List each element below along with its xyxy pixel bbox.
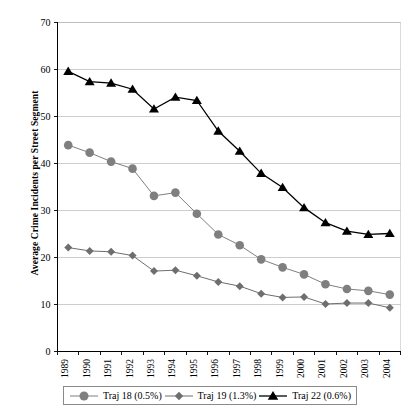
svg-text:50: 50 (41, 111, 51, 122)
svg-text:2001: 2001 (317, 359, 327, 378)
svg-text:1991: 1991 (103, 359, 113, 378)
svg-text:10: 10 (41, 299, 51, 310)
crime-trajectory-chart: Average Crime Incidents per Street Segme… (0, 0, 415, 412)
svg-text:1990: 1990 (82, 359, 92, 378)
svg-text:1995: 1995 (189, 359, 199, 378)
series-1 (64, 141, 394, 299)
x-axis-ticks: 1989199019911992199319941995199619971998… (58, 351, 401, 378)
svg-text:30: 30 (41, 205, 51, 216)
plot-area: 010203040506070 198919901991199219931994… (0, 0, 415, 412)
data-series (63, 67, 395, 312)
svg-text:40: 40 (41, 158, 51, 169)
legend-entry-3[interactable]: Traj 22 (0.6%) (258, 390, 351, 402)
legend-marker-diamond-icon (164, 390, 194, 402)
svg-text:1997: 1997 (232, 359, 242, 378)
svg-text:60: 60 (41, 64, 51, 75)
svg-text:20: 20 (41, 252, 51, 263)
chart-legend: Traj 18 (0.5%)Traj 19 (1.3%)Traj 22 (0.6… (63, 386, 357, 405)
legend-marker-circle-icon (69, 390, 99, 402)
svg-text:0: 0 (46, 346, 51, 357)
legend-entry-1[interactable]: Traj 18 (0.5%) (69, 390, 162, 402)
svg-text:1989: 1989 (60, 359, 70, 378)
legend-label: Traj 18 (0.5%) (103, 390, 162, 401)
series-2 (64, 244, 394, 312)
svg-text:2003: 2003 (360, 359, 370, 378)
legend-label: Traj 19 (1.3%) (198, 390, 257, 401)
legend-label: Traj 22 (0.6%) (292, 390, 351, 401)
y-axis-ticks: 010203040506070 (41, 17, 58, 357)
svg-text:1993: 1993 (146, 359, 156, 378)
svg-text:1996: 1996 (210, 359, 220, 378)
svg-text:1998: 1998 (253, 359, 263, 378)
svg-text:1992: 1992 (125, 359, 135, 378)
legend-entry-2[interactable]: Traj 19 (1.3%) (164, 390, 257, 402)
svg-text:2000: 2000 (296, 359, 306, 378)
svg-text:2002: 2002 (339, 359, 349, 378)
legend-marker-triangle-icon (258, 390, 288, 402)
svg-text:2004: 2004 (382, 359, 392, 378)
svg-text:1999: 1999 (275, 359, 285, 378)
svg-text:70: 70 (41, 17, 51, 28)
svg-text:1994: 1994 (167, 359, 177, 378)
series-3 (63, 67, 395, 238)
